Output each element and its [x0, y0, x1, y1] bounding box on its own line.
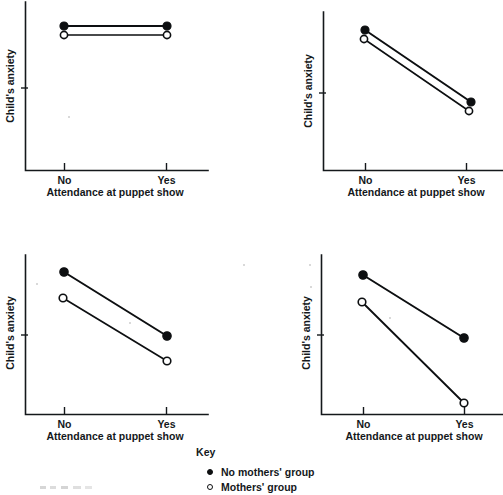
panel-bottom-right-point-mothers-group-yes	[460, 399, 468, 407]
scan-speck	[310, 286, 312, 288]
panel-bottom-right-x-tick-label-no: No	[357, 418, 371, 430]
panel-bottom-right-point-no-mothers-group-yes	[460, 334, 468, 342]
panel-top-right-x-axis-title: Attendance at puppet show	[347, 186, 485, 198]
legend-item-no-mothers-group: No mothers' group	[196, 466, 396, 479]
panel-top-right-x-tick-label-yes: Yes	[457, 174, 475, 186]
panel-top-left: No Yes Attendance at puppet show Child's…	[0, 0, 251, 215]
panel-top-right-point-no-mothers-group-no	[361, 26, 369, 34]
legend-item-mothers-group: Mothers' group	[196, 481, 396, 494]
panel-top-left-x-axis-title: Attendance at puppet show	[46, 186, 184, 198]
filled-circle-icon	[206, 467, 217, 478]
panel-top-left-point-mothers-group-yes	[163, 31, 170, 38]
scan-speck	[243, 264, 245, 266]
panel-top-right-series-mothers-group-line	[364, 39, 469, 111]
panel-top-left-point-mothers-group-no	[60, 31, 67, 38]
panel-bottom-left-series-mothers-group-line	[63, 298, 167, 361]
panel-top-right-point-mothers-group-no	[360, 35, 367, 42]
panel-top-left-x-tick-label-no: No	[58, 174, 72, 186]
panel-bottom-right-series-no-mothers-group-line	[363, 275, 464, 338]
legend-title: Key	[196, 446, 396, 458]
panel-bottom-left-point-mothers-group-no	[59, 294, 67, 302]
panel-top-left-point-no-mothers-group-no	[60, 22, 68, 30]
panel-bottom-left-point-no-mothers-group-yes	[163, 332, 171, 340]
scan-speck	[309, 264, 311, 266]
legend-item-label-mothers-group: Mothers' group	[221, 481, 297, 494]
scan-artifact	[40, 486, 92, 489]
panel-bottom-left-x-axis-title: Attendance at puppet show	[46, 430, 184, 442]
scan-speck	[36, 283, 38, 285]
panel-bottom-right-x-axis-title: Attendance at puppet show	[345, 430, 483, 442]
panel-top-right-x-tick-label-no: No	[359, 174, 373, 186]
four-panel-interaction-figure: No Yes Attendance at puppet show Child's…	[0, 0, 503, 495]
panel-bottom-left: No Yes Attendance at puppet show Child's…	[0, 230, 251, 445]
scan-speck	[68, 116, 70, 118]
panel-top-right-axes	[324, 12, 503, 171]
panel-top-right-point-mothers-group-yes	[465, 107, 472, 114]
panel-top-right-point-no-mothers-group-yes	[467, 98, 475, 106]
legend: Key No mothers' group Mothers' group	[196, 446, 396, 495]
panel-top-left-axes	[26, 2, 209, 171]
panel-bottom-left-x-tick-label-yes: Yes	[157, 418, 175, 430]
panel-top-left-x-tick-label-yes: Yes	[157, 174, 175, 186]
open-circle-icon	[206, 482, 217, 493]
panel-bottom-right: No Yes Attendance at puppet show Child's…	[251, 230, 503, 445]
panel-top-right-y-axis-title: Child's anxiety	[302, 54, 314, 128]
panel-top-left-y-axis-title: Child's anxiety	[4, 49, 16, 123]
panel-bottom-left-point-mothers-group-yes	[163, 357, 171, 365]
panel-top-right-series-no-mothers-group-line	[365, 30, 471, 102]
panel-bottom-left-y-axis-title: Child's anxiety	[4, 296, 16, 370]
panel-bottom-right-series-mothers-group-line	[362, 302, 464, 403]
panel-bottom-right-point-mothers-group-no	[358, 298, 366, 306]
panel-bottom-left-x-tick-label-no: No	[58, 418, 72, 430]
legend-item-label-no-mothers-group: No mothers' group	[221, 466, 315, 479]
panel-bottom-left-axes	[26, 255, 209, 415]
panel-bottom-left-series-no-mothers-group-line	[64, 272, 167, 336]
panel-top-left-point-no-mothers-group-yes	[163, 22, 171, 30]
panel-bottom-right-axes	[322, 255, 503, 415]
panel-top-right: No Yes Attendance at puppet show Child's…	[251, 0, 503, 215]
panel-bottom-right-y-axis-title: Child's anxiety	[300, 296, 312, 370]
panel-bottom-left-point-no-mothers-group-no	[60, 268, 68, 276]
panel-bottom-right-point-no-mothers-group-no	[359, 271, 367, 279]
scan-speck	[389, 317, 391, 319]
panel-bottom-right-x-tick-label-yes: Yes	[455, 418, 473, 430]
scan-speck	[129, 322, 131, 324]
